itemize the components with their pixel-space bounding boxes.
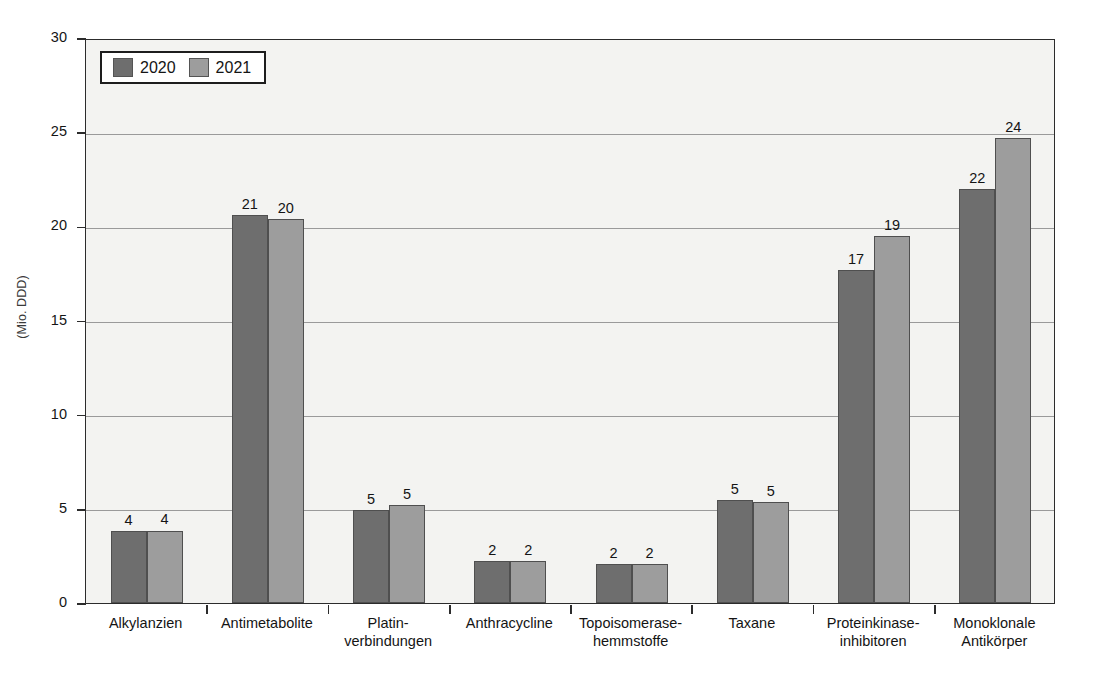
chart-legend: 20202021 xyxy=(100,51,266,84)
bar-value-label: 20 xyxy=(260,200,312,216)
bar-value-label: 5 xyxy=(381,486,433,502)
y-axis-label: (Mio. DDD) xyxy=(15,252,29,362)
bar xyxy=(959,189,995,603)
y-tick-label: 20 xyxy=(23,217,67,233)
x-tick-mark xyxy=(813,605,815,614)
bar xyxy=(474,561,510,603)
bar-chart-figure: (Mio. DDD) 051015202530 4421205522225517… xyxy=(0,0,1097,675)
bar xyxy=(389,505,425,603)
category-label-line: Monoklonale xyxy=(953,615,1035,631)
legend-label: 2021 xyxy=(216,59,252,77)
category-label-line: Taxane xyxy=(728,615,775,631)
y-tick-label: 5 xyxy=(23,500,67,516)
bar xyxy=(353,510,389,603)
category-label-line: Proteinkinase- xyxy=(827,615,920,631)
bar-value-label: 19 xyxy=(866,217,918,233)
category-label-line: Alkylanzien xyxy=(109,615,182,631)
y-tick-label: 10 xyxy=(23,406,67,422)
x-tick-mark xyxy=(570,605,572,614)
legend-label: 2020 xyxy=(140,59,176,77)
x-tick-mark xyxy=(449,605,451,614)
category-label-line: Anthracycline xyxy=(466,615,553,631)
bar xyxy=(268,219,304,603)
bar xyxy=(717,500,753,603)
category-label-line: Antikörper xyxy=(914,632,1074,650)
bar-value-label: 4 xyxy=(139,511,191,527)
legend-entry: 2020 xyxy=(113,58,176,77)
y-tick-label: 30 xyxy=(23,29,67,45)
y-tick-label: 15 xyxy=(23,312,67,328)
plot-area: 4421205522225517192224 20202021 xyxy=(85,39,1055,604)
bar-value-label: 2 xyxy=(624,545,676,561)
bar xyxy=(596,564,632,603)
bar-value-label: 5 xyxy=(745,483,797,499)
category-label-line: Antimetabolite xyxy=(221,615,313,631)
gridline xyxy=(86,134,1054,135)
category-label-line: verbindungen xyxy=(308,632,468,650)
category-label-line: Topoisomerase- xyxy=(579,615,682,631)
x-tick-mark xyxy=(328,605,330,614)
bar xyxy=(111,531,147,603)
bar xyxy=(874,236,910,603)
bar-value-label: 24 xyxy=(987,119,1039,135)
bar xyxy=(232,215,268,603)
bar xyxy=(838,270,874,603)
bar-value-label: 2 xyxy=(502,542,554,558)
x-tick-mark xyxy=(691,605,693,614)
y-tick-label: 0 xyxy=(23,594,67,610)
bar xyxy=(632,564,668,603)
legend-entry: 2021 xyxy=(189,58,252,77)
x-tick-mark xyxy=(934,605,936,614)
bar xyxy=(147,531,183,604)
category-label-line: hemmstoffe xyxy=(551,632,711,650)
legend-swatch-icon xyxy=(113,58,133,77)
x-tick-mark xyxy=(206,605,208,614)
category-label: MonoklonaleAntikörper xyxy=(914,614,1074,650)
bar xyxy=(995,138,1031,603)
y-tick-label: 25 xyxy=(23,123,67,139)
bar xyxy=(753,502,789,603)
bar xyxy=(510,561,546,603)
legend-swatch-icon xyxy=(189,58,209,77)
category-label-line: Platin- xyxy=(368,615,409,631)
